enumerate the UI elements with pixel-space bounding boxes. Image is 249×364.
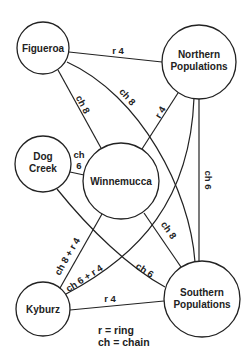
node-winnemucca: Winnemucca <box>83 143 159 219</box>
edge-label-dogcreek-winnemucca-1: ch <box>73 149 84 160</box>
legend-ring: r = ring <box>98 324 134 336</box>
edge-label-northern-southern: ch 6 <box>203 170 214 189</box>
population-network-diagram: r 4 ch 8 ch 8 r 4 ch 6 ch 6 + r 4 ch 6 c… <box>0 0 249 364</box>
edge-label-figueroa-southern: ch 8 <box>117 86 138 107</box>
node-kyburz: Kyburz <box>16 282 70 336</box>
node-southern-populations: Southern Populations <box>164 261 240 337</box>
edge-northern-winnemucca <box>142 93 178 149</box>
edge-winnemucca-southern <box>144 213 181 267</box>
edge-dogcreek-winnemucca <box>70 172 84 175</box>
edge-label-dogcreek-winnemucca-2: 6 <box>76 160 81 171</box>
node-label-northern-1: Northern <box>178 49 220 60</box>
node-label-dogcreek-1: Dog <box>33 151 52 162</box>
edge-label-northern-kyburz: ch 6 + r 4 <box>64 262 105 294</box>
node-figueroa: Figueroa <box>17 22 69 74</box>
node-dog-creek: Dog Creek <box>15 136 71 192</box>
edge-label-kyburz-southern: r 4 <box>104 293 116 304</box>
edge-label-dogcreek-southern: ch 6 <box>134 260 156 280</box>
node-label-winnemucca: Winnemucca <box>90 176 152 187</box>
legend-chain: ch = chain <box>98 336 150 348</box>
node-label-northern-2: Populations <box>170 61 228 72</box>
node-label-figueroa: Figueroa <box>22 43 65 54</box>
node-label-southern-2: Populations <box>173 299 231 310</box>
node-label-dogcreek-2: Creek <box>29 163 57 174</box>
edge-label-winnemucca-southern: ch 8 <box>159 219 179 241</box>
node-northern-populations: Northern Populations <box>162 25 236 99</box>
node-label-kyburz: Kyburz <box>26 304 60 315</box>
edge-label-northern-winnemucca: r 4 <box>152 104 168 120</box>
legend: r = ring ch = chain <box>98 324 150 348</box>
node-label-southern-1: Southern <box>180 287 224 298</box>
edge-label-figueroa-northern: r 4 <box>112 45 124 56</box>
edge-kyburz-southern <box>70 301 164 310</box>
